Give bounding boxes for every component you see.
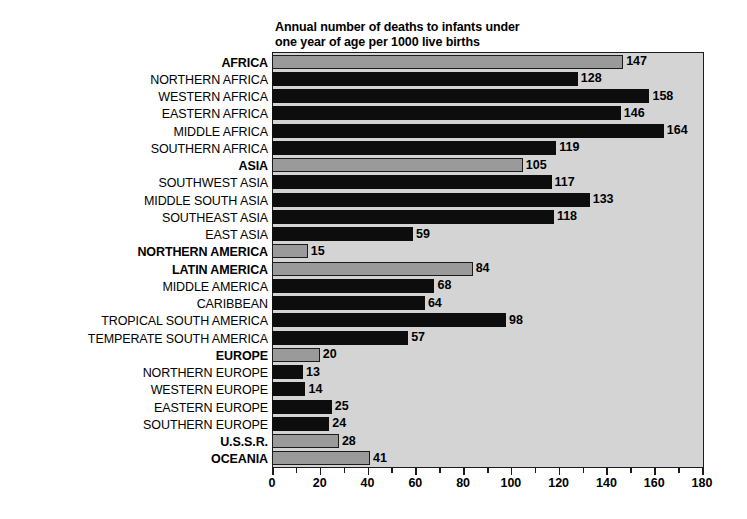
bar bbox=[272, 106, 621, 120]
bar-value-label: 128 bbox=[578, 70, 602, 87]
bar-value-label: 24 bbox=[329, 415, 346, 432]
axis-tick-major bbox=[463, 468, 465, 475]
category-label: SOUTHWEST ASIA bbox=[8, 176, 268, 190]
bar bbox=[272, 313, 506, 327]
bar-value-label: 14 bbox=[305, 381, 322, 398]
bar-value-label: 20 bbox=[320, 346, 337, 363]
bar bbox=[272, 382, 305, 396]
axis-tick-minor bbox=[391, 468, 393, 473]
bar bbox=[272, 141, 556, 155]
bar-value-label: 98 bbox=[506, 312, 523, 329]
chart-title: Annual number of deaths to infants under… bbox=[275, 20, 605, 50]
bar-value-label: 13 bbox=[303, 364, 320, 381]
axis-tick-major bbox=[606, 468, 608, 475]
category-label: TEMPERATE SOUTH AMERICA bbox=[8, 332, 268, 346]
bar-value-label: 164 bbox=[664, 122, 688, 139]
category-label: U.S.S.R. bbox=[8, 435, 268, 449]
bar bbox=[272, 417, 329, 431]
axis-tick-major bbox=[511, 468, 513, 475]
bar bbox=[272, 227, 413, 241]
category-label: EASTERN EUROPE bbox=[8, 401, 268, 415]
bar-value-label: 15 bbox=[308, 243, 325, 260]
bar-value-label: 119 bbox=[556, 139, 579, 156]
bar-value-label: 68 bbox=[434, 277, 451, 294]
axis-tick-minor bbox=[487, 468, 489, 473]
bar bbox=[272, 331, 408, 345]
bar bbox=[272, 193, 590, 207]
category-label: OCEANIA bbox=[8, 452, 268, 466]
axis-tick-minor bbox=[535, 468, 537, 473]
category-label: MIDDLE AMERICA bbox=[8, 280, 268, 294]
axis-tick-label: 80 bbox=[443, 476, 483, 491]
bar bbox=[272, 400, 332, 414]
axis-tick-major bbox=[654, 468, 656, 475]
bar-value-label: 146 bbox=[621, 105, 645, 122]
category-label: SOUTHERN EUROPE bbox=[8, 418, 268, 432]
bar-value-label: 57 bbox=[408, 329, 425, 346]
category-label: CARIBBEAN bbox=[8, 297, 268, 311]
bar-value-label: 105 bbox=[523, 157, 547, 174]
bar-value-label: 84 bbox=[473, 260, 490, 277]
axis-tick-minor bbox=[344, 468, 346, 473]
category-label: EAST ASIA bbox=[8, 228, 268, 242]
bar bbox=[272, 210, 554, 224]
axis-tick-minor bbox=[296, 468, 298, 473]
bar bbox=[272, 55, 623, 69]
category-label: NORTHERN AMERICA bbox=[8, 245, 268, 259]
category-label: WESTERN AFRICA bbox=[8, 90, 268, 104]
axis-tick-label: 160 bbox=[634, 476, 674, 491]
category-label: AFRICA bbox=[8, 56, 268, 70]
axis-tick-major bbox=[702, 468, 704, 475]
axis-tick-major bbox=[559, 468, 561, 475]
category-label: SOUTHEAST ASIA bbox=[8, 211, 268, 225]
category-label: TROPICAL SOUTH AMERICA bbox=[8, 314, 268, 328]
bar-value-label: 28 bbox=[339, 433, 356, 450]
bar-value-label: 25 bbox=[332, 398, 349, 415]
axis-tick-major bbox=[272, 468, 274, 475]
bar bbox=[272, 175, 552, 189]
axis-tick-minor bbox=[630, 468, 632, 473]
axis-tick-minor bbox=[439, 468, 441, 473]
bar bbox=[272, 451, 370, 465]
bar bbox=[272, 244, 308, 258]
axis-tick-label: 180 bbox=[682, 476, 722, 491]
category-label: ASIA bbox=[8, 159, 268, 173]
bar bbox=[272, 296, 425, 310]
category-label: NORTHERN EUROPE bbox=[8, 366, 268, 380]
axis-tick-minor bbox=[678, 468, 680, 473]
bar bbox=[272, 434, 339, 448]
axis-tick-label: 40 bbox=[348, 476, 388, 491]
category-label: EUROPE bbox=[8, 349, 268, 363]
bar bbox=[272, 279, 434, 293]
axis-tick-minor bbox=[583, 468, 585, 473]
bar-value-label: 118 bbox=[554, 208, 577, 225]
axis-tick-label: 100 bbox=[491, 476, 531, 491]
bar-value-label: 59 bbox=[413, 226, 430, 243]
bar bbox=[272, 348, 320, 362]
category-label: WESTERN EUROPE bbox=[8, 383, 268, 397]
axis-tick-major bbox=[415, 468, 417, 475]
category-label: EASTERN AFRICA bbox=[8, 107, 268, 121]
category-label: SOUTHERN AFRICA bbox=[8, 142, 268, 156]
bar-value-label: 133 bbox=[590, 191, 614, 208]
axis-tick-label: 20 bbox=[300, 476, 340, 491]
bar bbox=[272, 262, 473, 276]
bar-value-label: 158 bbox=[649, 88, 673, 105]
axis-tick-label: 140 bbox=[586, 476, 626, 491]
bar bbox=[272, 89, 649, 103]
bar-value-label: 147 bbox=[623, 53, 647, 70]
axis-tick-label: 60 bbox=[395, 476, 435, 491]
bar-value-label: 64 bbox=[425, 295, 442, 312]
bar bbox=[272, 365, 303, 379]
axis-tick-major bbox=[320, 468, 322, 475]
bar bbox=[272, 158, 523, 172]
category-label: LATIN AMERICA bbox=[8, 263, 268, 277]
axis-tick-label: 120 bbox=[539, 476, 579, 491]
bar bbox=[272, 124, 664, 138]
chart-container: Annual number of deaths to infants under… bbox=[0, 0, 747, 519]
axis-tick-major bbox=[368, 468, 370, 475]
category-label: MIDDLE AFRICA bbox=[8, 125, 268, 139]
bar bbox=[272, 72, 578, 86]
category-label: MIDDLE SOUTH ASIA bbox=[8, 194, 268, 208]
bar-value-label: 117 bbox=[552, 174, 575, 191]
